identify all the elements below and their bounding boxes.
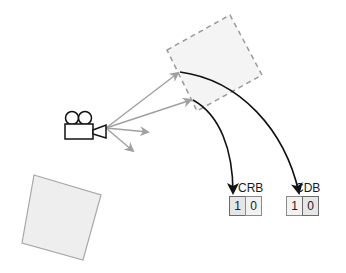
arrow-to-crb [193,100,233,193]
camera-ray-arrows [106,73,191,151]
cdb-cell-1: 0 [302,196,319,216]
crb-cell-0: 1 [229,196,246,216]
solid-gray-square [22,175,101,260]
crb-cell-1: 0 [245,196,262,216]
crb-label: CRB [238,182,263,194]
dashed-target-square [167,15,262,111]
cdb-cell-0: 1 [286,196,303,216]
cdb-label: CDB [295,182,320,194]
diagram-canvas [0,0,346,273]
video-camera-icon [65,112,106,140]
